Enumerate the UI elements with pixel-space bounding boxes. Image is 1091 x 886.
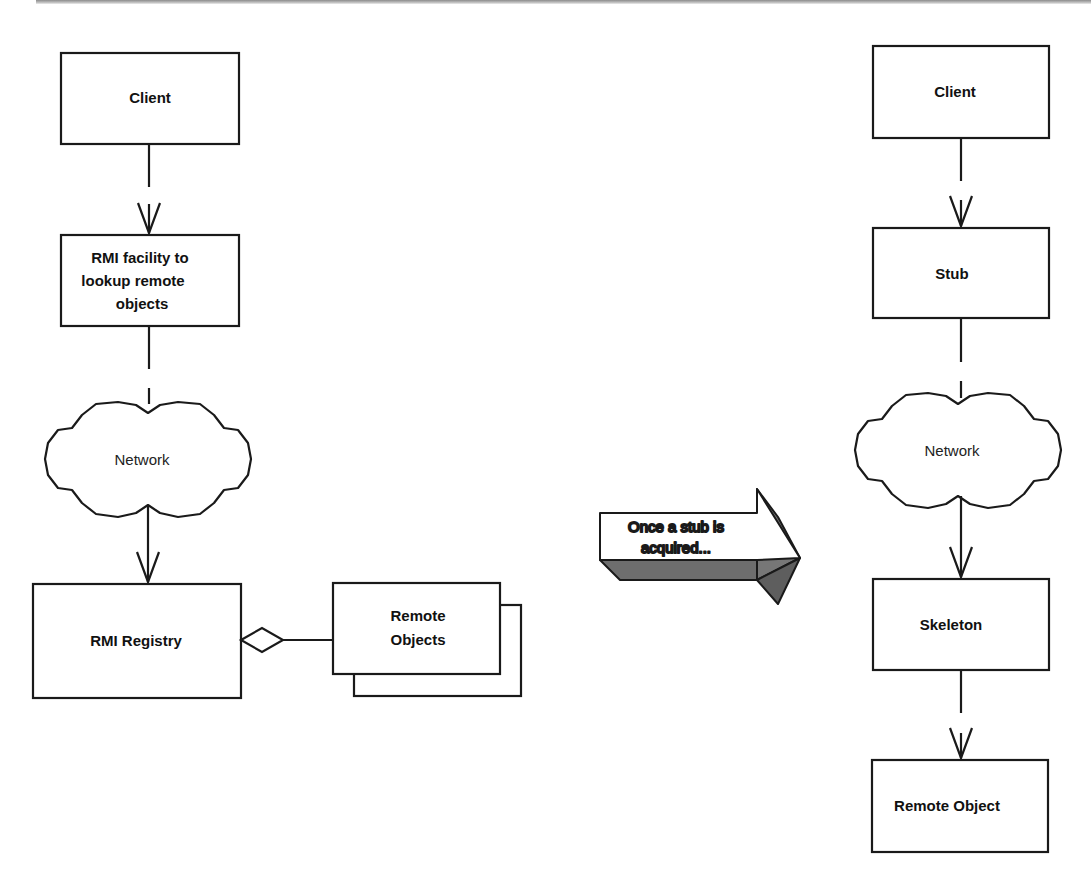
remote-objects-label-line1: Remote xyxy=(390,607,445,624)
left-client-label: Client xyxy=(129,89,171,106)
remote-objects-label-line2: Objects xyxy=(390,631,445,648)
arrow-network-to-skeleton xyxy=(950,496,972,577)
arrow-client-to-lookup xyxy=(138,144,160,233)
remote-object-box: Remote Object xyxy=(872,760,1048,852)
lookup-label-line3: objects xyxy=(116,295,169,312)
aggregation-connector xyxy=(241,628,333,652)
stub-label: Stub xyxy=(935,265,968,282)
transition-text-line2: acquired... xyxy=(641,539,711,556)
lookup-label-line1: RMI facility to xyxy=(91,249,189,266)
rmi-registry-label: RMI Registry xyxy=(90,632,182,649)
skeleton-box: Skeleton xyxy=(873,579,1049,670)
arrow-skeleton-to-remote-object xyxy=(950,670,972,758)
left-network-cloud: Network xyxy=(45,402,251,517)
transition-text-line1: Once a stub is xyxy=(628,518,724,535)
arrow-client-to-stub xyxy=(950,138,972,226)
stub-box: Stub xyxy=(873,228,1049,318)
right-network-label: Network xyxy=(924,442,980,459)
right-network-cloud: Network xyxy=(855,393,1061,508)
remote-object-label: Remote Object xyxy=(894,797,1000,814)
right-client-label: Client xyxy=(934,83,976,100)
rmi-registry-box: RMI Registry xyxy=(33,584,241,698)
arrow-network-to-registry xyxy=(137,505,159,582)
right-client-box: Client xyxy=(873,46,1049,138)
rmi-architecture-diagram: Client RMI facility to lookup remote obj… xyxy=(0,0,1091,886)
lookup-label-line2: lookup remote xyxy=(81,272,184,289)
lookup-box: RMI facility to lookup remote objects xyxy=(61,235,239,326)
left-client-box: Client xyxy=(61,53,239,144)
left-network-label: Network xyxy=(114,451,170,468)
transition-block-arrow: Once a stub is acquired... xyxy=(600,489,800,604)
remote-objects-stack: Remote Objects xyxy=(333,583,521,696)
skeleton-label: Skeleton xyxy=(920,616,983,633)
